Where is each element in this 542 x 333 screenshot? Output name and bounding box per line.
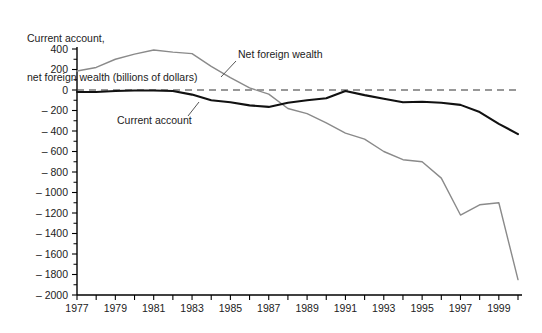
y-tick-label: – 1800: [36, 268, 68, 280]
x-tick-label: 1983: [180, 302, 204, 314]
y-tick-label: – 400: [42, 125, 68, 137]
chart-title: Current account, net foreign wealth (bil…: [27, 6, 197, 110]
x-tick-label: 1991: [334, 302, 358, 314]
y-tick-label: – 1200: [36, 207, 68, 219]
x-tick-label: 1981: [142, 302, 166, 314]
label-net-foreign-wealth: Net foreign wealth: [238, 48, 323, 60]
x-tick-label: 1999: [487, 302, 511, 314]
chart-figure: Current account, net foreign wealth (bil…: [0, 0, 542, 333]
x-tick-label: 1989: [295, 302, 319, 314]
x-tick-label: 1987: [257, 302, 281, 314]
x-tick-label: 1977: [65, 302, 89, 314]
label-current-account: Current account: [117, 114, 192, 126]
chart-title-line-1: Current account,: [27, 32, 197, 45]
y-tick-label: – 1600: [36, 248, 68, 260]
x-tick-label: 1985: [219, 302, 243, 314]
y-tick-label: – 1000: [36, 186, 68, 198]
x-axis: 1977197919811983198519871989199119931995…: [65, 295, 522, 314]
y-tick-label: – 1400: [36, 227, 68, 239]
x-tick-label: 1995: [410, 302, 434, 314]
y-tick-label: – 600: [42, 145, 68, 157]
x-tick-label: 1993: [372, 302, 396, 314]
y-tick-label: – 800: [42, 166, 68, 178]
x-tick-label: 1997: [449, 302, 473, 314]
leader-line-net-foreign-wealth: [221, 61, 236, 77]
y-tick-label: – 2000: [36, 289, 68, 301]
chart-title-line-2: net foreign wealth (billions of dollars): [27, 71, 197, 84]
x-tick-label: 1979: [104, 302, 128, 314]
